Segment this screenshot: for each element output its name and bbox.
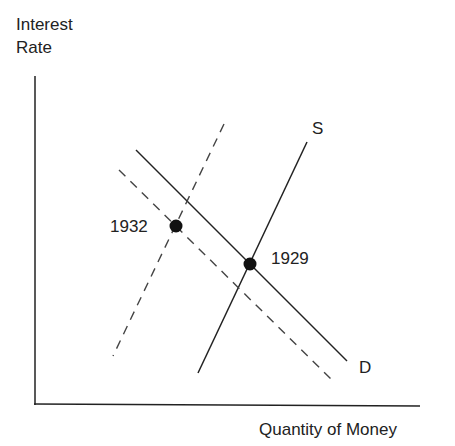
supply-curve-label: S: [312, 119, 323, 139]
y-axis-label-line1: Interest: [16, 15, 73, 35]
supply-curve-1932-dashed: [113, 124, 224, 356]
money-market-diagram: [0, 0, 455, 446]
point-label-1929: 1929: [271, 249, 309, 269]
x-axis: [34, 404, 420, 406]
equilibrium-point-1932: [170, 220, 183, 233]
x-axis-label: Quantity of Money: [259, 420, 397, 440]
point-label-1932: 1932: [110, 217, 148, 237]
y-axis-label-line2: Rate: [16, 38, 52, 58]
demand-curve-1929: [136, 150, 347, 361]
equilibrium-point-1929: [244, 258, 257, 271]
demand-curve-label: D: [359, 358, 371, 378]
